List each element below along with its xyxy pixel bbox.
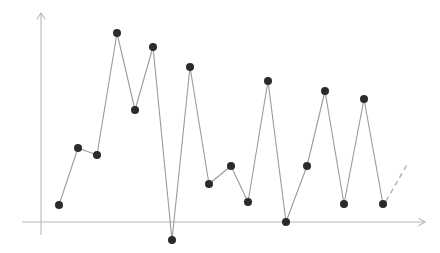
data-point-marker: [227, 162, 235, 170]
data-point-marker: [264, 77, 272, 85]
line-chart: [0, 0, 440, 253]
data-point-marker: [282, 218, 290, 226]
data-point-marker: [379, 200, 387, 208]
data-point-marker: [186, 63, 194, 71]
data-point-marker: [360, 95, 368, 103]
data-point-marker: [113, 29, 121, 37]
data-point-marker: [244, 198, 252, 206]
data-point-marker: [74, 144, 82, 152]
data-point-marker: [205, 180, 213, 188]
axes-group: [22, 13, 425, 235]
data-point-marker: [303, 162, 311, 170]
trend-continuation-dashed-line: [386, 163, 408, 201]
data-point-marker: [168, 236, 176, 244]
series-line-1: [59, 33, 383, 240]
series-group: [55, 29, 408, 244]
data-point-marker: [340, 200, 348, 208]
chart-container: [0, 0, 440, 253]
data-point-marker: [55, 201, 63, 209]
series-markers: [55, 29, 387, 244]
data-point-marker: [93, 151, 101, 159]
data-point-marker: [149, 43, 157, 51]
data-point-marker: [321, 87, 329, 95]
data-point-marker: [131, 106, 139, 114]
